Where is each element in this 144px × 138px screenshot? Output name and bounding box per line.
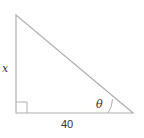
right-triangle	[16, 15, 133, 113]
angle-arc	[108, 99, 113, 113]
triangle-diagram: x θ 40	[0, 0, 144, 138]
right-angle-marker	[16, 102, 27, 113]
side-label-x: x	[2, 62, 9, 75]
side-label-40: 40	[61, 118, 73, 130]
angle-label-theta: θ	[96, 98, 103, 111]
triangle-svg: x θ 40	[0, 0, 144, 138]
